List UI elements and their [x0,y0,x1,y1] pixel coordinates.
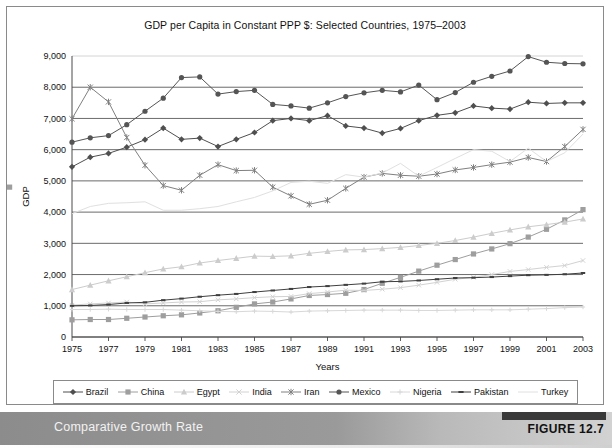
legend-marker-x-icon [229,387,249,397]
figure-number: FIGURE 12.7 [528,422,604,436]
legend-marker-plus-icon [390,387,410,397]
x-tick-label: 1983 [208,344,228,354]
series-china [7,185,586,323]
legend-label: India [252,387,272,397]
y-tick-label: 2,000 [43,270,66,280]
y-tick-label: 0 [61,332,66,342]
legend-label: Iran [304,387,320,397]
legend-marker-dash-icon [451,387,471,397]
legend-item-india[interactable]: India [229,387,272,397]
x-axis-title: Years [316,361,340,372]
series-pakistan [70,272,585,307]
x-tick-label: 1993 [390,344,410,354]
chart-legend: BrazilChinaEgyptIndiaIranMexicoNigeriaPa… [53,380,578,404]
legend-marker-square-icon [118,387,138,397]
legend-item-pakistan[interactable]: Pakistan [451,387,509,397]
x-tick-label: 2003 [573,344,593,354]
legend-item-china[interactable]: China [118,387,165,397]
y-tick-label: 5,000 [43,176,66,186]
x-tick-label: 2001 [536,344,556,354]
legend-item-iran[interactable]: Iran [281,387,320,397]
x-tick-label: 1999 [500,344,520,354]
figure-container: GDP per Capita in Constant PPP $: Select… [0,0,612,448]
legend-label: Nigeria [413,387,442,397]
y-tick-label: 6,000 [43,145,66,155]
series-egypt [69,216,586,292]
plot-area: 01,0002,0003,0004,0005,0006,0007,0008,00… [7,7,605,406]
series-mexico [69,54,585,145]
y-tick-label: 1,000 [43,301,66,311]
chart-svg: 01,0002,0003,0004,0005,0006,0007,0008,00… [7,7,605,406]
legend-marker-line-icon [518,387,538,397]
x-tick-label: 1981 [171,344,191,354]
legend-item-mexico[interactable]: Mexico [329,387,381,397]
figure-tab-decoration [502,412,606,420]
y-tick-label: 9,000 [43,51,66,61]
legend-label: Egypt [197,387,220,397]
y-tick-label: 8,000 [43,82,66,92]
legend-item-egypt[interactable]: Egypt [174,387,220,397]
y-tick-label: 4,000 [43,207,66,217]
y-tick-label: 3,000 [43,239,66,249]
legend-marker-asterisk-icon [281,387,301,397]
legend-item-nigeria[interactable]: Nigeria [390,387,442,397]
x-tick-label: 1995 [427,344,447,354]
x-tick-label: 1979 [135,344,155,354]
x-tick-label: 1989 [317,344,337,354]
series-nigeria [70,305,585,314]
legend-marker-circle-icon [329,387,349,397]
series-india [70,258,585,307]
legend-item-brazil[interactable]: Brazil [63,387,109,397]
y-tick-label: 7,000 [43,114,66,124]
chart-panel: GDP per Capita in Constant PPP $: Select… [6,6,604,405]
legend-marker-triangle-icon [174,387,194,397]
x-tick-label: 1977 [98,344,118,354]
x-tick-label: 1997 [463,344,483,354]
caption-bar: Comparative Growth Rate FIGURE 12.7 [0,412,612,445]
x-tick-label: 1975 [62,344,82,354]
x-tick-label: 1985 [244,344,264,354]
legend-item-turkey[interactable]: Turkey [518,387,568,397]
legend-marker-diamond-icon [63,387,83,397]
legend-label: Brazil [86,387,109,397]
legend-label: Turkey [541,387,568,397]
x-tick-label: 1991 [354,344,374,354]
figure-caption: Comparative Growth Rate [54,420,203,434]
x-tick-label: 1987 [281,344,301,354]
y-axis-title: GDP [20,186,31,207]
legend-label: Mexico [352,387,381,397]
legend-label: Pakistan [474,387,509,397]
legend-label: China [141,387,165,397]
